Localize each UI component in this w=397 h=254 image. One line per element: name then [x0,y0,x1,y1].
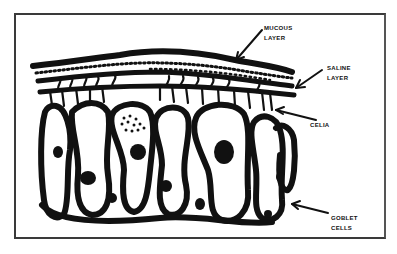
label-mucous-layer: Mucous Layer [264,22,292,42]
cell-1 [41,106,70,218]
cell-2 [72,103,109,215]
cell-4 [155,108,189,215]
basal-edge [42,205,272,223]
label-saline-layer: Saline Layer [327,62,351,82]
label-saline-line2: Layer [327,72,351,82]
epithelial-cells [41,103,295,223]
arrow-mucous [236,30,262,60]
label-goblet-line2: Cells [331,222,358,232]
goblet-cell-1 [111,104,153,212]
label-goblet-cells: Goblet Cells [331,212,358,232]
label-celia-line1: Celia [310,119,330,129]
label-mucous-line2: Layer [264,32,292,42]
label-mucous-line1: Mucous [264,22,292,32]
label-saline-line1: Saline [327,62,351,72]
arrow-saline [296,70,322,88]
label-goblet-line1: Goblet [331,212,358,222]
goblet-granules [121,115,146,133]
label-celia: Celia [310,119,330,129]
